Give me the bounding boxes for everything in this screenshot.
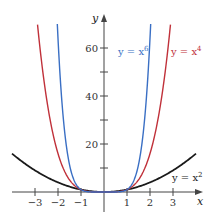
chart-canvas: x y −3−2−1123 204060 y = x2y = x4y = x6	[0, 0, 216, 222]
y-axis-label: y	[91, 12, 99, 25]
curve-labels: y = x2y = x4y = x6	[117, 45, 203, 183]
x-tick-label: −1	[74, 197, 89, 208]
x-tick-label: 3	[170, 197, 176, 208]
x-tick-label: −2	[51, 197, 66, 208]
x-axis-label: x	[197, 195, 204, 208]
y-tick-label: 60	[85, 43, 98, 54]
x-tick-label: 2	[147, 197, 153, 208]
y-tick-label: 40	[85, 91, 98, 102]
y-axis-arrow-icon	[101, 14, 107, 22]
label-x6: y = x6	[117, 45, 149, 57]
label-x2: y = x2	[171, 171, 203, 183]
label-x4: y = x4	[170, 45, 202, 57]
y-tick-label: 20	[85, 139, 98, 150]
x-ticks: −3−2−1123	[28, 188, 177, 208]
y-ticks: 204060	[85, 43, 108, 169]
x-tick-label: −3	[28, 197, 43, 208]
x-tick-label: 1	[124, 197, 130, 208]
